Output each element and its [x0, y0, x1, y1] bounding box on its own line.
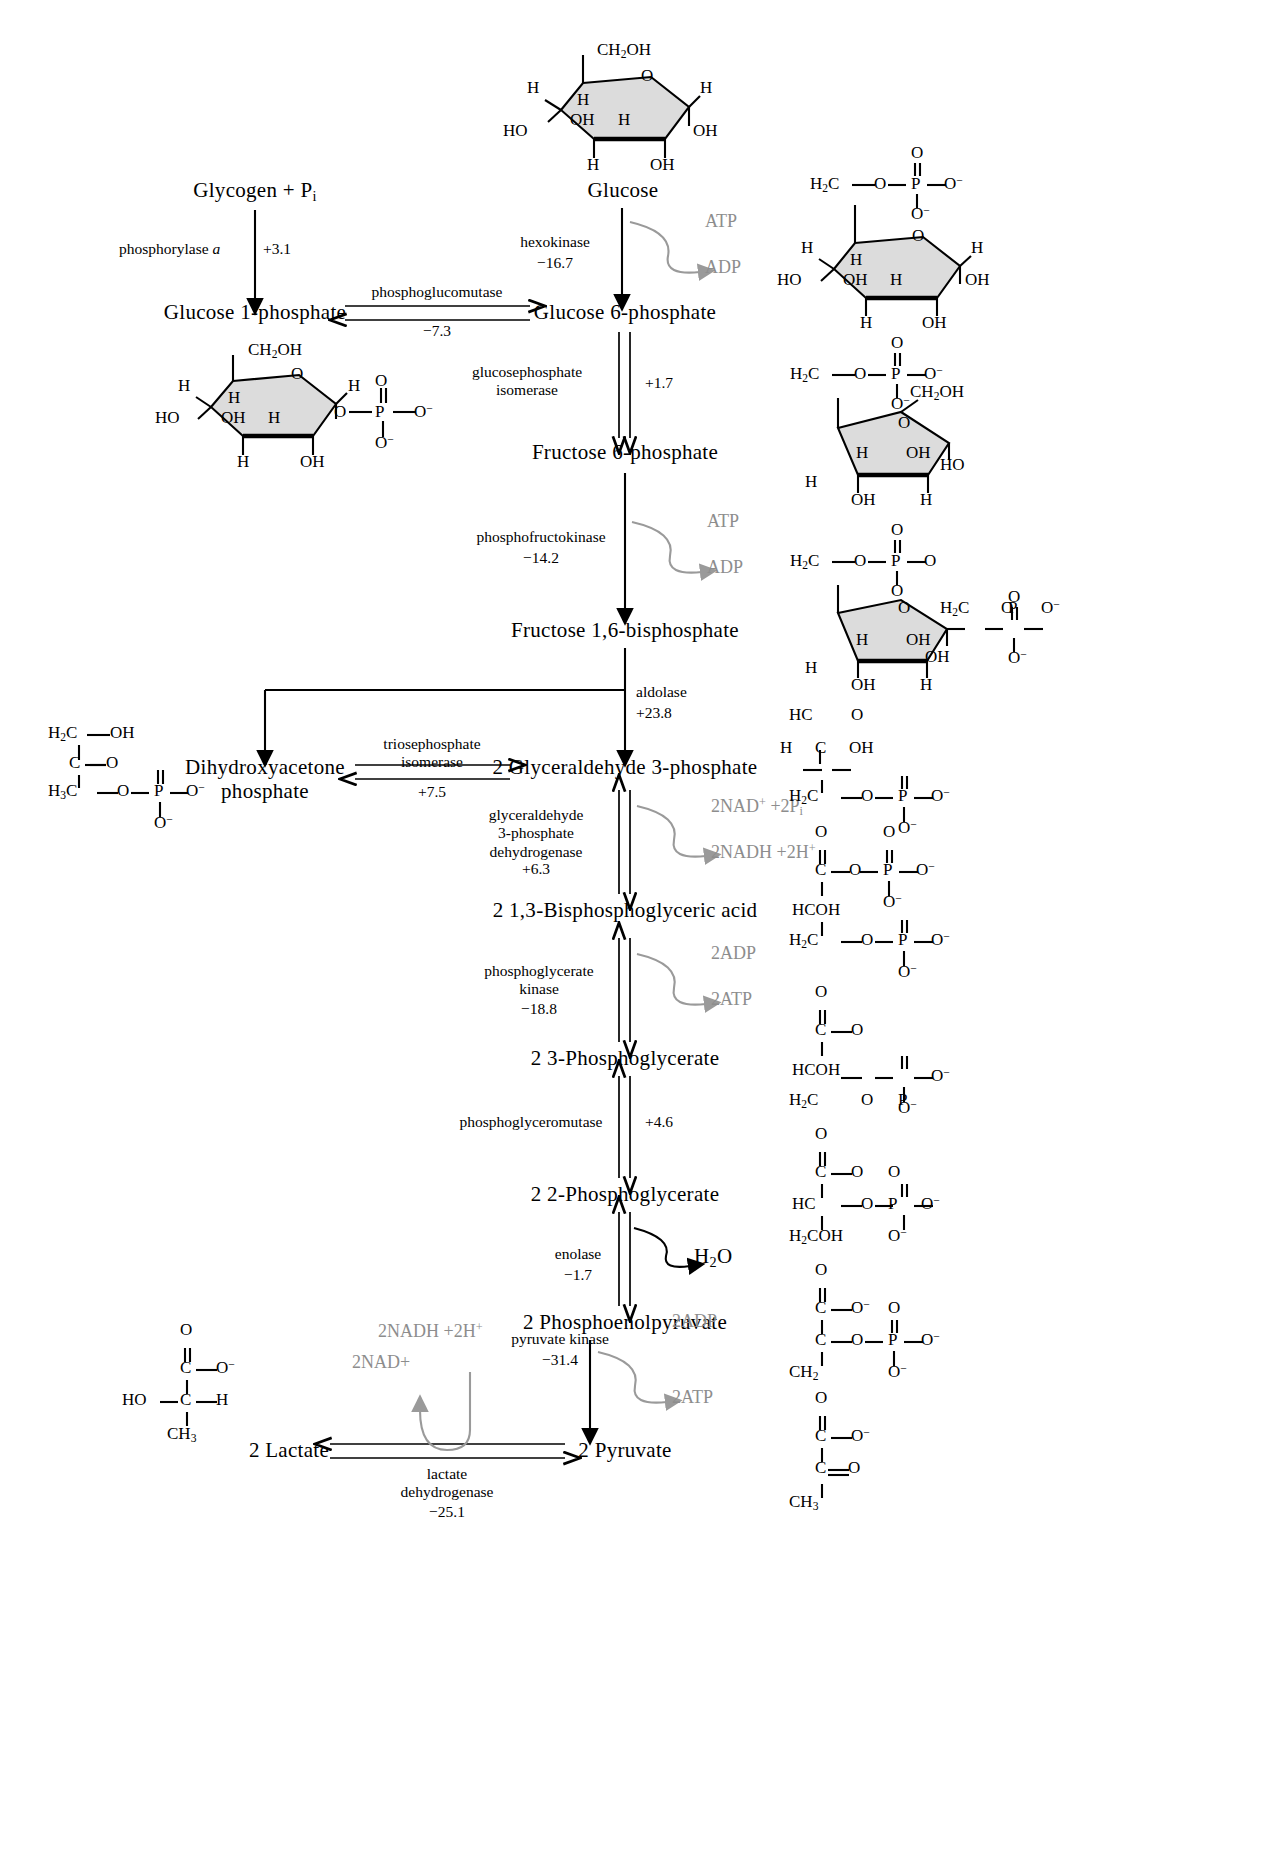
- g6p-o-top: O: [911, 143, 923, 163]
- glucose-bottom-h-label: H: [587, 155, 599, 175]
- f6p-left-h: H: [805, 472, 817, 492]
- g1p-inner-oh-label: OH: [221, 408, 246, 428]
- pep-c-label: C: [815, 1298, 826, 1318]
- pep-o-link: O: [851, 1330, 863, 1350]
- enzyme-gapdh-dg: +6.3: [522, 860, 550, 878]
- f6p-h2c-label: H2C: [790, 364, 819, 385]
- enzyme-hexokinase: hexokinase: [520, 233, 590, 251]
- g6p-inner-h: H: [850, 250, 862, 270]
- fbp-bottom-oh: OH: [851, 675, 876, 695]
- enzyme-hexokinase-dg: −16.7: [537, 254, 573, 272]
- lac-ho-label: HO: [122, 1390, 147, 1410]
- enzyme-phosphoglyceromutase-dg: +4.6: [645, 1113, 673, 1131]
- lac-h-label: H: [216, 1390, 228, 1410]
- g3p-h-label: H: [780, 738, 792, 758]
- bpg-o-link1: O: [849, 860, 861, 880]
- metabolite-glucose-1-phosphate: Glucose 1-phosphate: [164, 300, 346, 325]
- pyr-o-double: O: [848, 1458, 860, 1478]
- enzyme-triosephosphate-isomerase-dg: +7.5: [418, 783, 446, 801]
- pg2-o-label: O: [851, 1162, 863, 1182]
- cofactor-water-enolase: H2O: [694, 1244, 732, 1271]
- bpg-o-p1-bottom: O−: [883, 892, 902, 912]
- metabolite-1-3-bisphosphoglyceric-acid: 2 1,3-Bisphosphoglyceric acid: [493, 898, 758, 923]
- enzyme-enolase: enolase: [555, 1245, 601, 1263]
- pep-structure-lines: [820, 1288, 923, 1366]
- g1p-o-link-label: O: [334, 402, 346, 422]
- dhap-o-bottom: O−: [154, 813, 173, 833]
- pg2-c-label: C: [815, 1162, 826, 1182]
- glucose-ring-o-label: O: [641, 66, 653, 86]
- g1p-phosphate-p: P: [375, 402, 384, 422]
- bpg-o-p2-bottom: O−: [898, 962, 917, 982]
- metabolite-glucose-6-phosphate: Glucose 6-phosphate: [534, 300, 716, 325]
- f6p-inner-h: H: [856, 443, 868, 463]
- glucose-ho-label: HO: [503, 121, 528, 141]
- lac-c-label: C: [180, 1358, 191, 1378]
- fbp-o-bottom-right: O−: [1008, 648, 1027, 668]
- cofactor-2atp-pgk: 2ATP: [711, 989, 752, 1010]
- glucose-right-oh-label: OH: [693, 121, 718, 141]
- bpg-o-right1: O−: [916, 860, 935, 880]
- enzyme-phosphoglucomutase-dg: −7.3: [423, 322, 451, 340]
- metabolite-glyceraldehyde-3-phosphate: 2 Glyceraldehyde 3-phosphate: [493, 755, 758, 780]
- g6p-right-h: H: [971, 238, 983, 258]
- dhap-h3c-label: H3C: [48, 781, 77, 802]
- bpg-h2c-label: H2C: [789, 930, 818, 951]
- g6p-ho: HO: [777, 270, 802, 290]
- metabolite-dhap: Dihydroxyacetonephosphate: [185, 755, 345, 803]
- pg2-hc-label: HC: [792, 1194, 816, 1214]
- g3p-o-label: O: [851, 705, 863, 725]
- g1p-inner-h-label: H: [228, 388, 240, 408]
- g6p-bottom-h: H: [860, 313, 872, 333]
- fbp-inner-h: H: [856, 630, 868, 650]
- metabolite-lactate: 2 Lactate: [249, 1438, 329, 1463]
- f6p-bottom-oh: OH: [851, 490, 876, 510]
- g1p-ring-o-label: O: [291, 364, 303, 384]
- g3p-o-right: O−: [931, 786, 950, 806]
- f6p-ring-o-label: O: [898, 413, 910, 433]
- g6p-bottom-oh: OH: [922, 313, 947, 333]
- enzyme-pyruvate-kinase-dg: −31.4: [542, 1351, 578, 1369]
- pyr-o-top: O: [815, 1388, 827, 1408]
- f6p-p-label: P: [891, 364, 900, 384]
- g1p-phosphate-o-right: O−: [414, 402, 433, 422]
- g3p-o-link: O: [861, 786, 873, 806]
- pg2-o-p-top: O: [888, 1162, 900, 1182]
- enzyme-glucosephosphate-isomerase: glucosephosphateisomerase: [472, 363, 582, 400]
- metabolite-3-phosphoglycerate: 2 3-Phosphoglycerate: [531, 1046, 720, 1071]
- cofactor-nadh-ldh: 2NADH +2H+: [378, 1320, 483, 1342]
- enzyme-glucosephosphate-isomerase-dg: +1.7: [645, 374, 673, 392]
- enzyme-phosphorylase-a: phosphorylase a: [119, 240, 220, 258]
- cofactor-atp-pfk: ATP: [707, 511, 739, 532]
- g1p-left-h-label: H: [178, 376, 190, 396]
- lac-o-top: O: [180, 1320, 192, 1340]
- g6p-inner-oh: OH: [843, 270, 868, 290]
- pg3-c-label: C: [815, 1020, 826, 1040]
- f6p-ho: HO: [940, 455, 965, 475]
- pep-c2-label: C: [815, 1330, 826, 1350]
- g6p-o-bottom: O−: [911, 204, 930, 224]
- dhap-o-double: O: [106, 753, 118, 773]
- pep-o-bottom: O−: [888, 1362, 907, 1382]
- g1p-right-h-label: H: [348, 376, 360, 396]
- dhap-structure-lines: [79, 735, 188, 817]
- enzyme-phosphofructokinase-dg: −14.2: [523, 549, 559, 567]
- dhap-c-label: C: [69, 753, 80, 773]
- pg2-o-bottom: O−: [888, 1226, 907, 1246]
- glucose-inner-oh-label: OH: [570, 110, 595, 130]
- pep-o-minus: O−: [851, 1298, 870, 1318]
- g6p-o-link: O: [874, 174, 886, 194]
- fbp-o-top-right: O: [1008, 587, 1020, 607]
- pg3-o-label: O: [851, 1020, 863, 1040]
- metabolite-glucose: Glucose: [588, 178, 659, 203]
- enzyme-phosphoglyceromutase: phosphoglyceromutase: [460, 1113, 603, 1131]
- cofactor-nad-ldh: 2NAD+: [352, 1352, 410, 1373]
- f6p-o-link: O: [854, 364, 866, 384]
- f6p-o-bottom: O−: [891, 394, 910, 414]
- lac-ch3-label: CH3: [167, 1424, 196, 1445]
- fbp-o-right2: O−: [1041, 598, 1060, 618]
- metabolite-2-phosphoglycerate: 2 2-Phosphoglycerate: [531, 1182, 720, 1207]
- fbp-o-top: O: [891, 520, 903, 540]
- fbp-left-h: H: [805, 658, 817, 678]
- pep-o-top: O: [815, 1260, 827, 1280]
